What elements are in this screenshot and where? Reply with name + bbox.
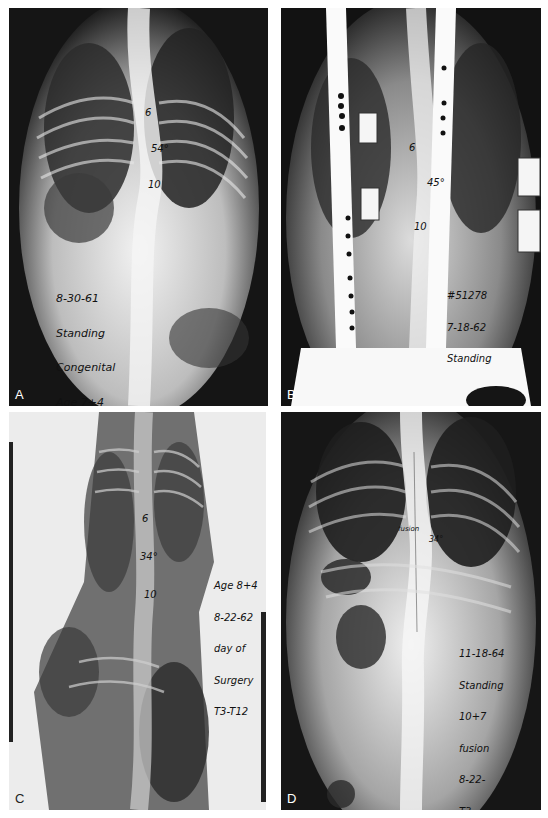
xray-image-a xyxy=(9,8,268,406)
curve-angle: 34° xyxy=(140,552,158,563)
handwritten-annotation: #51278 7-18-62 Standing xyxy=(447,270,492,386)
fusion-mark: fusion xyxy=(398,526,419,533)
handwritten-annotation: 11-18-64 Standing 10+7 fusion 8-22- T3 xyxy=(459,628,504,810)
xray-image-b xyxy=(281,8,541,406)
xray-panel-c: 6 34° 10 Age 8+4 8-22-62 day of Surgery … xyxy=(9,412,266,810)
vertebra-mark-upper: 6 xyxy=(145,108,151,119)
xray-panel-a: 6 54° 10 8-30-61 Standing Congenital Age… xyxy=(9,8,268,406)
xray-panel-b: 6 45° 10 #51278 7-18-62 Standing B xyxy=(281,8,541,406)
curve-angle: 34° xyxy=(429,536,443,544)
xray-panel-d: fusion 34° 11-18-64 Standing 10+7 fusion… xyxy=(281,412,541,810)
handwritten-annotation: Age 8+4 8-22-62 day of Surgery T3-T12 xyxy=(214,560,258,739)
panel-label: B xyxy=(287,387,296,402)
vertebra-mark-lower: 10 xyxy=(414,222,427,233)
vertebra-mark-lower: 10 xyxy=(144,590,157,601)
vertebra-mark-upper: 6 xyxy=(142,514,148,525)
handwritten-annotation: 8-30-61 Standing Congenital Age 7+4 xyxy=(56,270,115,406)
vertebra-mark-lower: 10 xyxy=(148,180,161,191)
curve-angle: 54° xyxy=(151,144,169,155)
panel-label: D xyxy=(287,791,296,806)
curve-angle: 45° xyxy=(427,178,445,189)
vertebra-mark-upper: 6 xyxy=(409,143,415,154)
panel-label: C xyxy=(15,791,24,806)
panel-label: A xyxy=(15,387,24,402)
